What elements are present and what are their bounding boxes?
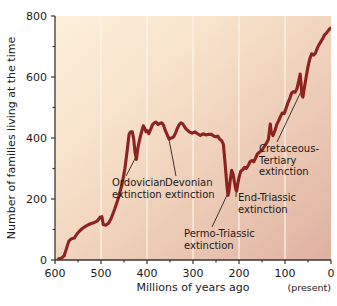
x-tick-label: 400: [137, 267, 158, 280]
present-note: (present): [287, 282, 331, 293]
annotation-line: extinction: [184, 240, 234, 251]
annotation-line: extinction: [112, 189, 162, 200]
y-tick-label: 600: [26, 71, 47, 84]
x-tick-label: 200: [229, 267, 250, 280]
x-tick-label: 0: [328, 267, 335, 280]
annotation-line: extinction: [238, 204, 288, 215]
chart-canvas: 0200400600800 6005004003002001000 Ordovi…: [0, 0, 337, 306]
annotation-line: Ordovician: [112, 177, 166, 188]
y-tick-label: 800: [26, 10, 47, 23]
annotation-line: Permo-Triassic: [184, 228, 255, 239]
annotation-line: Devonian: [165, 177, 212, 188]
x-axis-tick-labels: 6005004003002001000: [45, 267, 335, 280]
annotation-line: End-Triassic: [238, 192, 296, 203]
annotation-line: extinction: [259, 166, 309, 177]
y-axis-title: Number of families living at the time: [5, 37, 18, 240]
y-tick-label: 400: [26, 132, 47, 145]
x-tick-label: 100: [275, 267, 296, 280]
x-tick-label: 300: [183, 267, 204, 280]
annotation-end-triassic: End-Triassicextinction: [238, 192, 296, 215]
y-axis-tick-labels: 0200400600800: [26, 10, 47, 267]
annotation-ordovician: Ordovicianextinction: [112, 177, 166, 200]
y-tick-label: 200: [26, 193, 47, 206]
y-tick-label: 0: [40, 254, 47, 267]
annotation-line: Cretaceous-: [259, 143, 319, 154]
extinction-chart-figure: 0200400600800 6005004003002001000 Ordovi…: [0, 0, 337, 306]
annotation-line: extinction: [165, 189, 215, 200]
x-axis-title: Millions of years ago: [137, 281, 250, 294]
annotation-line: Tertiary: [258, 155, 297, 166]
x-tick-label: 500: [91, 267, 112, 280]
annotation-devonian: Devonianextinction: [165, 177, 215, 200]
x-tick-label: 600: [45, 267, 66, 280]
